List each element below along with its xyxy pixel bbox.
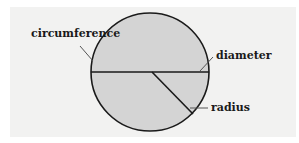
diameter-label: diameter [216, 49, 272, 62]
radius-label: radius [211, 101, 250, 114]
circle-diagram: circumference diameter radius [0, 0, 299, 143]
circumference-leader-line [80, 46, 93, 61]
circumference-label: circumference [31, 27, 120, 40]
